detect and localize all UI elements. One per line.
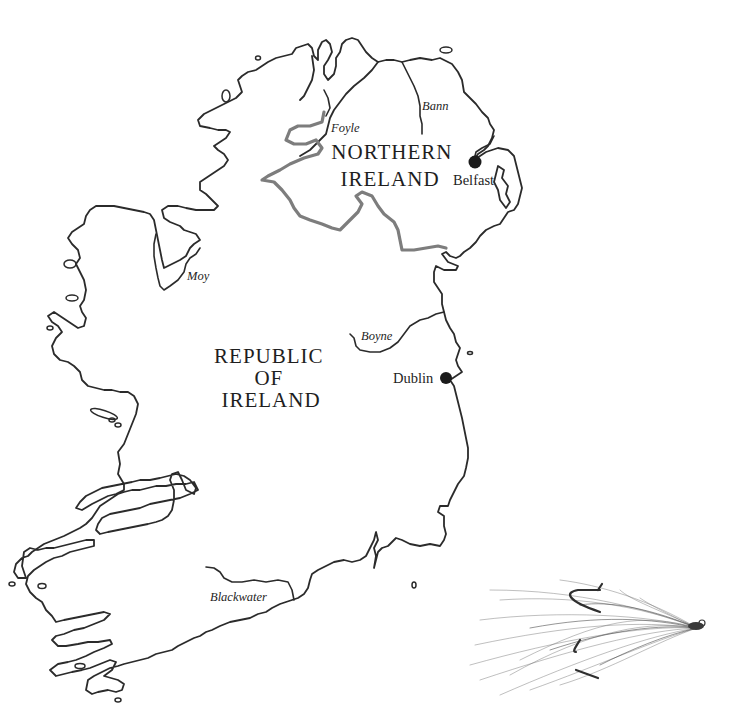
strangford-lough xyxy=(494,166,510,208)
valentia-island xyxy=(38,584,46,589)
aran-island-donegal xyxy=(222,90,230,102)
river-bann xyxy=(402,62,422,134)
cape-clear xyxy=(115,698,121,702)
saltee-islands xyxy=(412,582,416,588)
ireland-map: NORTHERN IRELAND REPUBLIC OF IRELAND Bel… xyxy=(0,0,731,728)
lambay-island xyxy=(468,352,473,355)
bere-island xyxy=(75,664,85,669)
city-marker-dublin xyxy=(440,372,452,384)
fly-hook-point xyxy=(576,670,598,678)
label-river-boyne: Boyne xyxy=(361,329,393,343)
blasket-islands xyxy=(9,582,15,586)
label-river-moy: Moy xyxy=(186,269,210,283)
label-river-foyle: Foyle xyxy=(330,121,360,135)
label-river-bann: Bann xyxy=(422,99,448,113)
label-republic-line-3: IRELAND xyxy=(221,388,320,412)
label-dublin: Dublin xyxy=(393,370,434,386)
label-northern-ireland: NORTHERN IRELAND xyxy=(331,140,458,191)
label-republic-line-2: OF xyxy=(254,366,283,390)
city-marker-belfast xyxy=(469,156,482,169)
label-belfast: Belfast xyxy=(453,172,494,188)
aran-small-2 xyxy=(115,423,121,427)
rathlin-island xyxy=(440,47,452,53)
lough-swilly xyxy=(300,56,314,100)
label-republic-of-ireland: REPUBLIC OF IRELAND xyxy=(214,344,330,412)
salmon-fly-illustration xyxy=(470,580,705,695)
inishbofin xyxy=(47,326,53,330)
clare-island xyxy=(66,295,78,301)
tory-island xyxy=(256,56,261,60)
label-northern-ireland-line-2: IRELAND xyxy=(340,167,439,191)
label-river-blackwater: Blackwater xyxy=(210,590,267,604)
label-republic-line-1: REPUBLIC xyxy=(214,344,324,368)
achill-island xyxy=(64,260,76,268)
label-northern-ireland-line-1: NORTHERN xyxy=(331,140,452,164)
